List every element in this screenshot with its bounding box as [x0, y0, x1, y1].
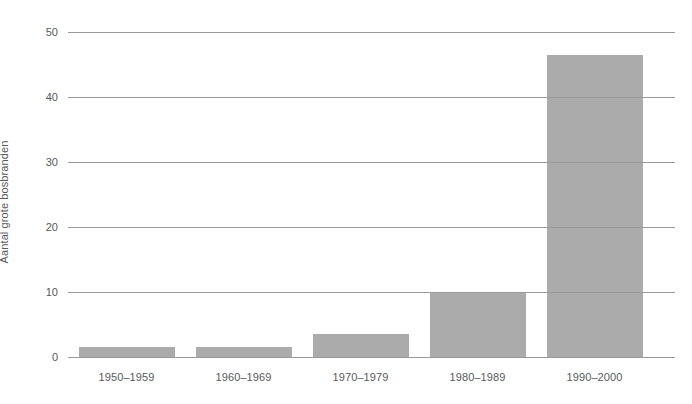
x-tick-label-1960-1969: 1960–1969	[185, 365, 302, 389]
bar-slot-1980-1989	[419, 32, 536, 357]
y-tick-label-40: 40	[0, 92, 58, 103]
bar-1950-1959[interactable]	[79, 347, 175, 357]
bar-1970-1979[interactable]	[313, 334, 409, 357]
x-tick-label-1980-1989: 1980–1989	[419, 365, 536, 389]
bar-1990-2000[interactable]	[547, 55, 643, 357]
bar-chart: Aantal grote bosbranden 0 10 20 30 40 50	[0, 0, 692, 404]
y-tick-label-0: 0	[0, 352, 58, 363]
y-tick-label-20: 20	[0, 222, 58, 233]
x-axis-tick-labels: 1950–1959 1960–1969 1970–1979 1980–1989 …	[68, 365, 653, 389]
bar-1980-1989[interactable]	[430, 292, 526, 357]
y-tick-label-30: 30	[0, 157, 58, 168]
x-tick-label-1990-2000: 1990–2000	[536, 365, 653, 389]
gridline-0-baseline	[68, 357, 675, 358]
bar-slot-1970-1979	[302, 32, 419, 357]
y-tick-label-10: 10	[0, 287, 58, 298]
bar-slot-1960-1969	[185, 32, 302, 357]
x-tick-label-1970-1979: 1970–1979	[302, 365, 419, 389]
y-tick-label-50: 50	[0, 27, 58, 38]
bar-slot-1950-1959	[68, 32, 185, 357]
x-tick-label-1950-1959: 1950–1959	[68, 365, 185, 389]
bar-1960-1969[interactable]	[196, 347, 292, 357]
bars-layer	[68, 32, 653, 357]
y-axis-tick-labels: 0 10 20 30 40 50	[0, 32, 58, 357]
bar-slot-1990-2000	[536, 32, 653, 357]
